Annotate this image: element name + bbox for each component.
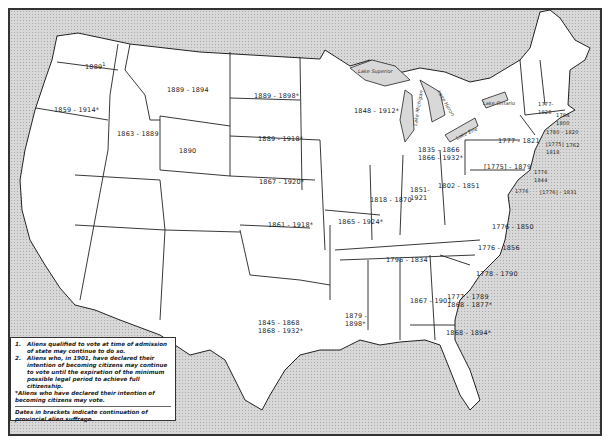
label-rhode-island: 1762 xyxy=(566,141,580,149)
label-south-carolina: 1778 - 1790 xyxy=(476,270,518,278)
label-delaware: [1776] - 1831 xyxy=(540,188,577,196)
legend-brackets-note: Dates in brackets indicate continuation … xyxy=(15,409,171,423)
label-nebraska: 1867 - 1920* xyxy=(259,178,304,186)
legend-divider xyxy=(15,406,171,407)
label-florida: 1868 - 1894* xyxy=(446,329,491,337)
label-virginia: 1776 - 1850 xyxy=(492,223,534,231)
label-new-jersey: 17761844 xyxy=(534,168,548,184)
label-alabama: 1867 - 1901 xyxy=(410,297,452,305)
label-illinois: 1818 - 1870 xyxy=(370,196,412,204)
legend-note-2: 2. Aliens who, in 1901, have declared th… xyxy=(15,355,171,390)
label-pennsylvania: [1775] - 1879 xyxy=(484,163,531,171)
label-idaho: 1863 - 1889 xyxy=(117,130,159,138)
legend-box: 1. Aliens qualified to vote at time of a… xyxy=(10,337,176,421)
label-north-carolina: 1776 - 1856 xyxy=(478,244,520,252)
label-montana: 1889 - 1894 xyxy=(167,86,209,94)
label-massachusetts: 1780 - 1820 xyxy=(546,128,579,136)
lake-superior-label: Lake Superior xyxy=(358,68,393,74)
label-new-hampshire: 17841800 xyxy=(556,111,570,127)
label-washington: 18891 xyxy=(85,60,106,71)
legend-asterisk-note: *Aliens who have declared their intentio… xyxy=(15,390,171,404)
lake-ontario-label: Lake Ontario xyxy=(483,100,515,106)
label-maryland: 1776 xyxy=(515,187,529,195)
label-oregon: 1859 - 1914* xyxy=(54,106,99,114)
label-kansas: 1861 - 1918* xyxy=(268,221,313,229)
label-georgia: 1777 - 1789 1868 - 1877* xyxy=(447,293,492,309)
label-wisconsin: 1848 - 1912* xyxy=(354,107,399,115)
label-vermont: 1777-1828 xyxy=(538,100,554,116)
label-connecticut: [1775]1818 xyxy=(546,140,564,156)
label-wyoming: 1890 xyxy=(179,147,196,155)
label-south-dakota: 1889 - 1918* xyxy=(258,135,303,143)
label-louisiana: 1879 -1898* xyxy=(345,312,367,328)
label-michigan: 1835 - 1866 1866 - 1932* xyxy=(418,146,463,162)
label-tennessee: 1796 - 1834 xyxy=(386,256,428,264)
label-missouri: 1865 - 1924* xyxy=(338,218,383,226)
label-new-york: 1777 - 1821 xyxy=(498,137,540,145)
label-north-dakota: 1889 - 1898* xyxy=(254,92,299,100)
label-texas: 1845 - 1868 1868 - 1932* xyxy=(258,319,303,335)
label-ohio: 1802 - 1851 xyxy=(438,182,480,190)
label-indiana: 1851-1921 xyxy=(410,186,430,202)
legend-note-1: 1. Aliens qualified to vote at time of a… xyxy=(15,341,171,355)
